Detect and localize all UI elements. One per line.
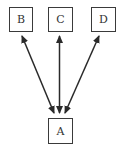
node-d-label: D xyxy=(99,13,108,26)
node-b: B xyxy=(10,8,33,32)
node-b-label: B xyxy=(17,13,25,26)
edge-a-d xyxy=(65,36,99,113)
diagram-canvas: B C D A xyxy=(0,0,120,151)
node-a-label: A xyxy=(56,125,66,138)
node-c: C xyxy=(49,8,73,32)
node-a: A xyxy=(49,119,73,144)
node-c-label: C xyxy=(56,13,64,26)
node-d: D xyxy=(92,8,116,32)
edge-a-b xyxy=(22,36,54,113)
